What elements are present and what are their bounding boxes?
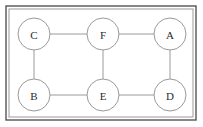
graph-node-a[interactable]: A	[154, 18, 186, 50]
node-label-f: F	[100, 29, 106, 41]
graph-node-d[interactable]: D	[154, 79, 186, 111]
graph-node-f[interactable]: F	[87, 18, 119, 50]
node-label-a: A	[166, 29, 174, 41]
graph-node-c[interactable]: C	[18, 18, 50, 50]
graph-canvas: CFABED	[0, 0, 203, 127]
node-label-e: E	[100, 90, 107, 102]
node-label-c: C	[30, 29, 37, 41]
graph-node-e[interactable]: E	[87, 79, 119, 111]
graph-figure: CFABED	[0, 0, 203, 127]
node-label-b: B	[30, 90, 37, 102]
graph-node-b[interactable]: B	[18, 79, 50, 111]
node-label-d: D	[166, 90, 174, 102]
